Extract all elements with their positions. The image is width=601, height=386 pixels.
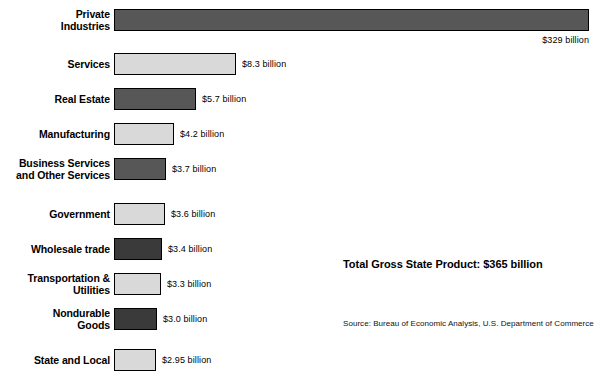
bar-row-label: PrivateIndustries bbox=[0, 9, 110, 32]
bar-value-label: $3.4 billion bbox=[168, 244, 212, 254]
bar-row-label-line1: State and Local bbox=[34, 354, 110, 366]
bar[interactable] bbox=[114, 53, 236, 75]
bar-wrapper: $329 billion bbox=[114, 9, 589, 33]
bar-row-label-line1: Services bbox=[68, 58, 110, 70]
bar[interactable] bbox=[114, 123, 174, 145]
bar[interactable] bbox=[114, 273, 161, 295]
bar-row-label-line1: Government bbox=[49, 208, 110, 220]
bar-row-label-line1: Wholesale trade bbox=[31, 243, 110, 255]
bar-row-label-line1: Private bbox=[76, 8, 110, 20]
bar-row-label-line1: Business Services bbox=[19, 157, 110, 169]
bar-value-label: $329 billion bbox=[542, 35, 589, 45]
bar-wrapper: $8.3 billion bbox=[114, 53, 236, 77]
bar[interactable] bbox=[114, 203, 165, 225]
bar-row-label-line1: Real Estate bbox=[54, 93, 110, 105]
bar-row: Real Estate$5.7 billion bbox=[0, 88, 601, 112]
bar[interactable] bbox=[114, 88, 196, 110]
bar-row: State and Local$2.95 billion bbox=[0, 349, 601, 373]
bar-row-label-line2: Industries bbox=[0, 21, 110, 33]
bar[interactable] bbox=[114, 158, 166, 180]
bar[interactable] bbox=[114, 308, 157, 330]
bar-row: PrivateIndustries$329 billion bbox=[0, 9, 601, 33]
total-gross-state-product-label: Total Gross State Product: $365 billion bbox=[343, 258, 543, 270]
bar-row-label: Real Estate bbox=[0, 94, 110, 106]
bar[interactable] bbox=[114, 238, 162, 260]
bar-wrapper: $3.4 billion bbox=[114, 238, 162, 262]
bar-wrapper: $3.6 billion bbox=[114, 203, 165, 227]
bar-value-label: $2.95 billion bbox=[162, 355, 211, 365]
bar-row-label-line1: Transportation & bbox=[28, 272, 110, 284]
bar[interactable] bbox=[114, 349, 156, 371]
bar-wrapper: $3.7 billion bbox=[114, 158, 166, 182]
bar-row: Manufacturing$4.2 billion bbox=[0, 123, 601, 147]
source-attribution-label: Source: Bureau of Economic Analysis, U.S… bbox=[343, 319, 594, 328]
bar-row-label: Manufacturing bbox=[0, 129, 110, 141]
bar-row-label: Services bbox=[0, 59, 110, 71]
bar-value-label: $3.3 billion bbox=[167, 279, 211, 289]
bar-wrapper: $2.95 billion bbox=[114, 349, 156, 373]
bar-row-label: State and Local bbox=[0, 355, 110, 367]
bar-row: Business Servicesand Other Services$3.7 … bbox=[0, 158, 601, 182]
bar-wrapper: $4.2 billion bbox=[114, 123, 174, 147]
bar-row-label: Transportation &Utilities bbox=[0, 273, 110, 296]
bar-row-label-line1: Nondurable bbox=[53, 307, 110, 319]
bar-row: Government$3.6 billion bbox=[0, 203, 601, 227]
bar-row-label: NondurableGoods bbox=[0, 308, 110, 331]
bar-row-label: Government bbox=[0, 209, 110, 221]
bar-value-label: $8.3 billion bbox=[242, 59, 286, 69]
chart-canvas: PrivateIndustries$329 billionServices$8.… bbox=[0, 0, 601, 386]
bar-wrapper: $3.3 billion bbox=[114, 273, 161, 297]
bar-row-label: Wholesale trade bbox=[0, 244, 110, 256]
bar-wrapper: $5.7 billion bbox=[114, 88, 196, 112]
bar-row-label-line2: Utilities bbox=[0, 285, 110, 297]
bar-value-label: $4.2 billion bbox=[180, 129, 224, 139]
bar-row-label-line1: Manufacturing bbox=[39, 128, 110, 140]
bar-row: Transportation &Utilities$3.3 billion bbox=[0, 273, 601, 297]
bar-value-label: $3.6 billion bbox=[171, 209, 215, 219]
bar-wrapper: $3.0 billion bbox=[114, 308, 157, 332]
bar-row-label-line2: Goods bbox=[0, 320, 110, 332]
bar-row-label-line2: and Other Services bbox=[0, 170, 110, 182]
bar-row-label: Business Servicesand Other Services bbox=[0, 158, 110, 181]
bar-value-label: $5.7 billion bbox=[202, 94, 246, 104]
bar[interactable] bbox=[114, 9, 589, 31]
bar-value-label: $3.7 billion bbox=[172, 164, 216, 174]
bar-row: Services$8.3 billion bbox=[0, 53, 601, 77]
bar-value-label: $3.0 billion bbox=[163, 314, 207, 324]
